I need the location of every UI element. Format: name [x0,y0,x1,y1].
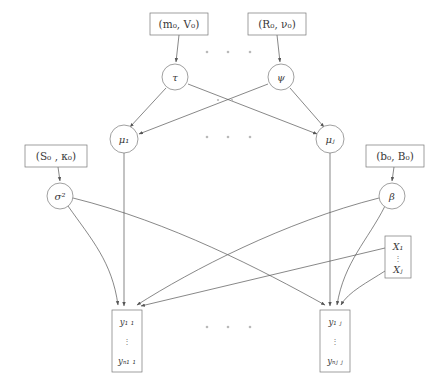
node-circle-sigma-squared: σ² [47,183,73,209]
node-box-m0-V0: (m₀, V₀) [150,13,208,35]
node-label-psi: ψ [277,72,285,83]
node-box-R0-nu0: (R₀, ν₀) [248,13,306,35]
node-circle-mu-J: μⱼ [316,125,344,153]
node-label-m0-V0: (m₀, V₀) [159,18,200,30]
node-label-X-J: Xⱼ [392,264,403,275]
edge-Sk0-to-sigma2 [58,167,60,181]
edge-group-covariates [141,248,385,306]
node-box-covariates: X₁ ⋮ Xⱼ [385,236,411,278]
node-group-observations: y₁ ₁ ⋮ yₙ₁ ₁ y₁ ⱼ ⋮ yₙⱼ ⱼ [112,310,350,372]
edge-tau-to-mu1 [130,88,166,127]
diagram-canvas: (m₀, V₀) (R₀, ν₀) (S₀ , κ₀) (b₀, B₀) τ [0,0,445,381]
vertical-ellipsis-covariates: ⋮ [394,254,402,263]
edge-mV0-to-tau [176,35,179,62]
edge-XJ-to-yJ [341,271,385,305]
ellipsis-group [206,51,252,329]
ellipsis-row-top [206,51,252,54]
node-label-X-1: X₁ [392,241,404,252]
node-box-b0-B0: (b₀, B₀) [366,145,424,167]
edge-X1-to-y1 [141,248,385,306]
edge-group-mu-to-observations [124,153,330,306]
edge-psi-to-muJ [290,88,324,127]
node-circle-mu-1: μ₁ [110,125,138,153]
node-label-S0-kappa0: (S₀ , κ₀) [36,150,76,162]
node-circle-beta: β [379,183,405,209]
node-label-y-1-J: y₁ ⱼ [327,317,342,327]
edge-tau-to-muJ [188,84,317,134]
edge-beta-to-y1 [137,198,379,305]
edge-group-hyperparameters [58,35,394,181]
node-box-observations-J: y₁ ⱼ ⋮ yₙⱼ ⱼ [320,310,350,372]
vertical-ellipsis-observations-1: ⋮ [123,337,131,346]
vertical-ellipsis-observations-J: ⋮ [331,337,339,346]
node-label-R0-nu0: (R₀, ν₀) [258,18,296,30]
graphical-model-diagram: (m₀, V₀) (R₀, ν₀) (S₀ , κ₀) (b₀, B₀) τ [0,0,445,381]
edge-psi-to-mu1 [139,84,268,134]
node-group-hyperparameter-boxes: (m₀, V₀) (R₀, ν₀) (S₀ , κ₀) (b₀, B₀) [25,13,424,167]
node-label-sigma-squared: σ² [55,191,66,202]
edge-sigma2-to-yJ [73,198,325,305]
edge-beta-to-yJ [337,206,385,305]
node-label-y-nJ-J: yₙⱼ ⱼ [326,356,343,366]
node-label-y-1-1: y₁ ₁ [119,317,134,327]
edge-group-latent [130,84,324,134]
node-group-circles: τ ψ μ₁ μⱼ σ² β [47,64,405,209]
node-label-mu-1: μ₁ [119,134,130,145]
edge-Rnu0-to-psi [277,35,280,62]
node-circle-psi: ψ [268,64,294,90]
node-circle-tau: τ [162,64,188,90]
node-label-b0-B0: (b₀, B₀) [376,150,414,162]
ellipsis-row-mu [206,136,252,139]
node-label-beta: β [388,191,395,202]
edge-bB0-to-beta [392,167,394,181]
edge-group-sigma2 [68,198,325,305]
node-box-S0-kappa0: (S₀ , κ₀) [25,145,87,167]
edge-sigma2-to-y1 [68,206,118,305]
node-label-mu-J: μⱼ [325,134,334,145]
edge-group-beta [137,198,385,305]
node-label-y-n1-1: yₙ₁ ₁ [117,356,136,366]
node-box-observations-1: y₁ ₁ ⋮ yₙ₁ ₁ [112,310,142,372]
ellipsis-row-bottom [206,326,252,329]
node-label-tau: τ [172,72,178,83]
